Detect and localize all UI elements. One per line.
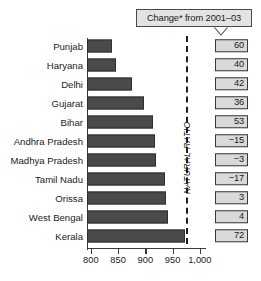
change-value-box: 72 [215, 229, 248, 243]
category-label-west-bengal: West Bengal [29, 211, 83, 222]
bar-kerala [87, 229, 185, 242]
bar-rows: Punjab60Haryana40Delhi42Gujarat36Bihar53… [0, 36, 261, 248]
x-tick-label: 800 [83, 255, 99, 265]
change-value-box: −15 [215, 134, 248, 148]
change-value-box: −3 [215, 153, 248, 167]
change-value-box: 42 [215, 77, 248, 91]
bar-row: Haryana40 [0, 55, 261, 74]
bar-delhi [87, 77, 132, 90]
x-tick-label: 850 [110, 255, 126, 265]
bar-row: Punjab60 [0, 36, 261, 55]
x-tick [145, 249, 146, 254]
category-label-bihar: Bihar [61, 116, 83, 127]
bar-row: Madhya Pradesh−3 [0, 150, 261, 169]
x-tick [173, 249, 174, 254]
bar-bihar [87, 115, 153, 128]
change-value-box: 4 [215, 210, 248, 224]
change-value-box: 3 [215, 191, 248, 205]
change-value-box: 60 [215, 39, 248, 53]
change-value-box: 36 [215, 96, 248, 110]
bar-haryana [87, 58, 116, 71]
bar-row: West Bengal4 [0, 207, 261, 226]
category-label-kerala: Kerala [55, 230, 83, 241]
plot-area: Punjab60Haryana40Delhi42Gujarat36Bihar53… [0, 36, 261, 248]
bar-row: Tamil Nadu−17 [0, 169, 261, 188]
x-tick [200, 249, 201, 254]
bar-gujarat [87, 96, 144, 109]
bar-row: Andhra Pradesh−15 [0, 131, 261, 150]
bar-tamil-nadu [87, 172, 165, 185]
bar-row: Bihar53 [0, 112, 261, 131]
chart-figure: Change* from 2001–03 Punjab60Haryana40De… [0, 0, 261, 281]
x-axis-line [87, 248, 206, 249]
change-value-box: 40 [215, 58, 248, 72]
bar-row: Orissa3 [0, 188, 261, 207]
category-label-gujarat: Gujarat [52, 97, 83, 108]
category-label-tamil-nadu: Tamil Nadu [35, 173, 83, 184]
bar-row: Gujarat36 [0, 93, 261, 112]
change-callout-label: Change* from 2001–03 [147, 13, 241, 23]
category-label-madhya-pradesh: Madhya Pradesh [10, 154, 83, 165]
bar-punjab [87, 39, 112, 52]
x-tick [91, 249, 92, 254]
bar-madhya-pradesh [87, 153, 156, 166]
category-label-andhra-pradesh: Andhra Pradesh [14, 135, 83, 146]
bar-west-bengal [87, 210, 168, 223]
x-tick [118, 249, 119, 254]
change-value-box: 53 [215, 115, 248, 129]
bar-orissa [87, 191, 166, 204]
x-tick-label: 900 [138, 255, 154, 265]
category-label-delhi: Delhi [61, 78, 83, 89]
category-label-orissa: Orissa [55, 192, 83, 203]
x-tick-label: 950 [165, 255, 181, 265]
bar-row: Kerala72 [0, 226, 261, 245]
chevron-down-icon [214, 27, 228, 36]
change-callout-box: Change* from 2001–03 [136, 9, 252, 27]
category-label-punjab: Punjab [53, 40, 83, 51]
change-value-box: −17 [215, 172, 248, 186]
bar-row: Delhi42 [0, 74, 261, 93]
bar-andhra-pradesh [87, 134, 155, 147]
category-label-haryana: Haryana [47, 59, 83, 70]
x-tick-label: 1,000 [188, 255, 211, 265]
natural-ratio-label: NATURAL RATIO [182, 121, 192, 194]
